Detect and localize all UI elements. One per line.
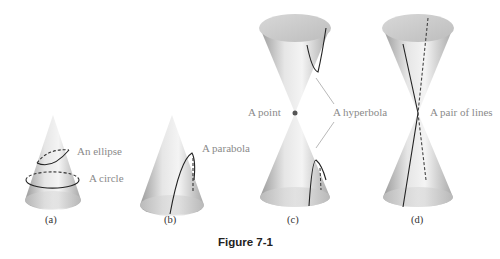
label-hyperbola: A hyperbola — [333, 106, 387, 118]
label-parabola: A parabola — [202, 142, 250, 154]
label-point: A point — [248, 106, 281, 118]
cone-a — [25, 115, 81, 210]
figure-title: Figure 7-1 — [218, 236, 273, 248]
caption-d: (d) — [411, 214, 423, 225]
cone-b — [140, 115, 204, 216]
caption-c: (c) — [287, 214, 299, 225]
conic-sections-diagram — [0, 0, 500, 259]
caption-b: (b) — [164, 214, 176, 225]
label-ellipse: An ellipse — [77, 145, 122, 157]
label-circle: A circle — [89, 172, 124, 184]
label-pair-of-lines: A pair of lines — [430, 106, 493, 118]
caption-a: (a) — [45, 214, 57, 225]
